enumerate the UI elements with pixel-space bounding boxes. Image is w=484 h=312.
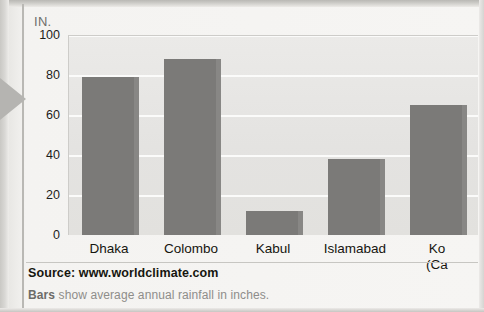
y-tick-label-40: 40 xyxy=(46,148,60,162)
y-tick-label-0: 0 xyxy=(53,228,60,242)
x-axis-label-line1: Islamabad xyxy=(324,241,386,256)
caption-divider xyxy=(26,262,478,263)
bar xyxy=(82,77,139,235)
bars-note-lead: Bars xyxy=(28,288,55,302)
bar-chart-figure: IN. 020406080100 DhakaColomboKabulIslama… xyxy=(26,8,478,308)
x-axis-label: Islamabad xyxy=(314,241,396,257)
x-axis-label: Ko(Ca xyxy=(396,241,478,272)
x-axis-label: Kabul xyxy=(232,241,314,257)
y-tick-label-20: 20 xyxy=(46,188,60,202)
x-axis-label-line1: Kabul xyxy=(256,241,291,256)
y-tick-label-80: 80 xyxy=(46,68,60,82)
x-axis-label-line1: Ko xyxy=(429,241,446,256)
bar xyxy=(246,211,303,235)
x-axis-label: Dhaka xyxy=(68,241,150,257)
bars-note-rest: show average annual rainfall in inches. xyxy=(55,288,269,302)
gridline-100 xyxy=(69,35,478,37)
source-line: Source: www.worldclimate.com xyxy=(28,266,219,280)
bars-note: Bars show average annual rainfall in inc… xyxy=(28,288,269,302)
page-right-edge xyxy=(479,0,484,312)
page-bottom-edge xyxy=(0,308,484,312)
x-axis-label: Colombo xyxy=(150,241,232,257)
x-axis-label-line1: Colombo xyxy=(164,241,218,256)
plot-area xyxy=(68,35,478,235)
x-axis-label-line1: Dhaka xyxy=(89,241,128,256)
bar xyxy=(164,59,221,235)
bar xyxy=(328,159,385,235)
bar xyxy=(410,105,467,235)
page-top-edge xyxy=(0,0,484,7)
page-spine-rule xyxy=(22,4,24,308)
y-axis-unit-label: IN. xyxy=(34,14,52,29)
x-axis-label-line2: (Ca xyxy=(396,257,478,273)
y-tick-label-60: 60 xyxy=(46,108,60,122)
page-left-edge xyxy=(0,0,9,312)
y-tick-label-100: 100 xyxy=(39,28,60,42)
scanned-page: IN. 020406080100 DhakaColomboKabulIslama… xyxy=(0,0,484,312)
